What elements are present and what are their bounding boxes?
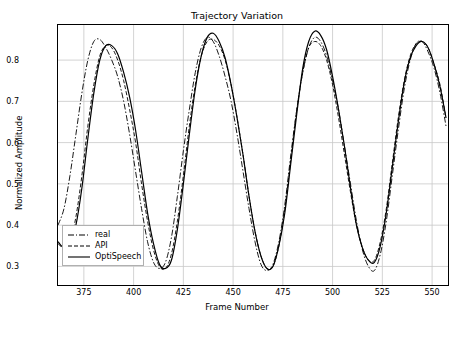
x-tick-label: 375: [76, 288, 91, 297]
x-tick-label: 525: [375, 288, 390, 297]
legend-label-api: API: [95, 241, 108, 250]
legend-swatch-solid: [67, 252, 91, 262]
legend-swatch-dashdot: [67, 230, 91, 240]
y-tick-label: 0.3: [6, 262, 19, 271]
x-tick-label: 550: [424, 288, 439, 297]
chart-figure: Trajectory Variation Normalized Amplitud…: [0, 0, 474, 337]
legend-swatch-dashed: [67, 241, 91, 251]
legend-item-real: real: [67, 229, 139, 240]
x-axis-label: Frame Number: [0, 302, 474, 312]
legend-item-optispeech: OptiSpeech: [67, 251, 139, 262]
y-tick-label: 0.8: [6, 56, 19, 65]
y-axis-label: Normalized Amplitude: [14, 116, 24, 210]
x-tick-label: 425: [176, 288, 191, 297]
legend-label-real: real: [95, 230, 110, 239]
x-tick-label: 450: [225, 288, 240, 297]
x-tick-label: 500: [325, 288, 340, 297]
y-tick-label: 0.5: [6, 179, 19, 188]
x-tick-label: 475: [275, 288, 290, 297]
chart-legend: real API OptiSpeech: [62, 225, 144, 266]
y-tick-label: 0.7: [6, 97, 19, 106]
y-tick-label: 0.6: [6, 138, 19, 147]
y-tick-label: 0.4: [6, 221, 19, 230]
legend-label-optispeech: OptiSpeech: [95, 252, 141, 261]
x-tick-label: 400: [126, 288, 141, 297]
legend-item-api: API: [67, 240, 139, 251]
chart-title: Trajectory Variation: [0, 10, 474, 21]
